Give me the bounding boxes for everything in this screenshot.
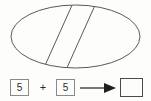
ellipse-icon (11, 5, 140, 68)
addend-box-2[interactable]: 5 (56, 79, 75, 96)
equation-row: 5 + 5 (0, 76, 151, 101)
addend-2-value: 5 (63, 83, 69, 93)
addend-box-1[interactable]: 5 (10, 79, 29, 96)
worksheet-graphic: 5 + 5 (0, 0, 151, 101)
ellipse-figure (0, 0, 151, 74)
addend-1-value: 5 (17, 83, 23, 93)
sum-answer-box[interactable] (120, 78, 143, 97)
right-arrow-icon (79, 78, 117, 97)
plus-operator: + (36, 79, 50, 96)
